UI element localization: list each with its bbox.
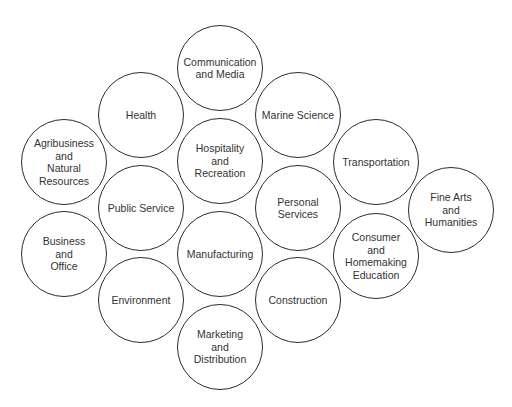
bubble-consumer-and-homemaking-education: Consumer and Homemaking Education: [333, 213, 419, 299]
bubble-communication-and-media: Communication and Media: [177, 25, 263, 111]
bubble-manufacturing: Manufacturing: [177, 211, 263, 297]
bubble-hospitality-and-recreation: Hospitality and Recreation: [177, 118, 263, 204]
bubble-label: Personal Services: [277, 196, 318, 221]
bubble-agribusiness-and-natural-resources: Agribusiness and Natural Resources: [21, 119, 107, 205]
bubble-label: Communication and Media: [184, 56, 257, 81]
bubble-label: Consumer and Homemaking Education: [345, 231, 407, 281]
bubble-environment: Environment: [98, 257, 184, 343]
bubble-health: Health: [98, 72, 184, 158]
bubble-label: Fine Arts and Humanities: [425, 191, 478, 229]
bubble-public-service: Public Service: [98, 165, 184, 251]
bubble-label: Manufacturing: [187, 248, 254, 261]
bubble-label: Public Service: [108, 202, 175, 215]
bubble-label: Marketing and Distribution: [194, 328, 247, 366]
bubble-business-and-office: Business and Office: [21, 211, 107, 297]
bubble-label: Agribusiness and Natural Resources: [34, 137, 94, 187]
bubble-label: Construction: [269, 294, 328, 307]
bubble-fine-arts-and-humanities: Fine Arts and Humanities: [408, 167, 494, 253]
bubble-label: Environment: [112, 294, 171, 307]
bubble-label: Marine Science: [262, 109, 334, 122]
bubble-label: Business and Office: [43, 235, 86, 273]
bubble-construction: Construction: [255, 257, 341, 343]
bubble-marketing-and-distribution: Marketing and Distribution: [177, 304, 263, 390]
bubble-marine-science: Marine Science: [255, 72, 341, 158]
bubble-transportation: Transportation: [333, 119, 419, 205]
bubble-personal-services: Personal Services: [255, 165, 341, 251]
bubble-label: Hospitality and Recreation: [195, 142, 246, 180]
career-clusters-diagram: Communication and Media Health Marine Sc…: [0, 0, 512, 407]
bubble-label: Transportation: [342, 156, 409, 169]
bubble-label: Health: [126, 109, 156, 122]
